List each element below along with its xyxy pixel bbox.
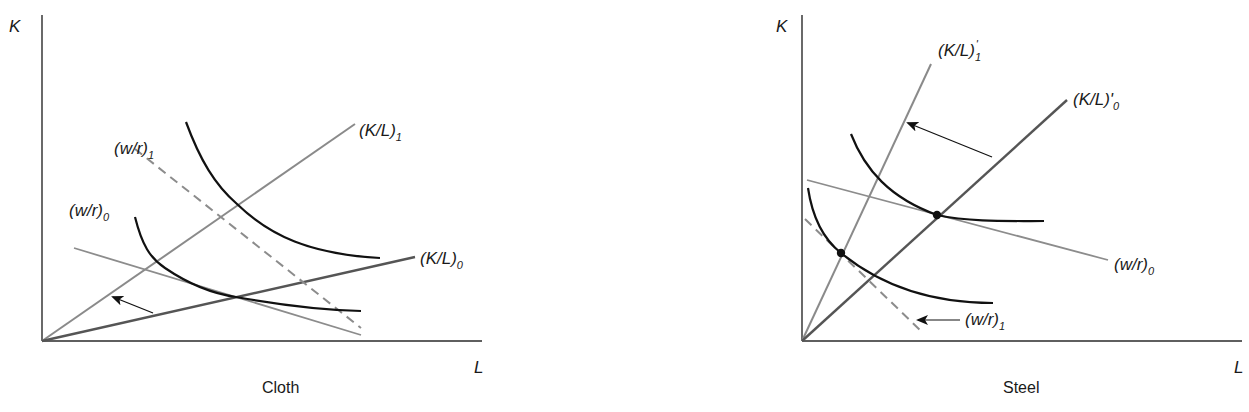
cloth-title: Cloth	[262, 379, 299, 396]
cloth-price-line-wr0	[74, 248, 361, 335]
steel-k-axis-label: K	[776, 17, 788, 36]
cloth-ray-kl0	[42, 257, 415, 341]
steel-tangency-point-lower	[837, 249, 845, 257]
steel-label-kl0-prime: (K/L)'0	[1073, 90, 1120, 112]
cloth-isoquant-lower	[135, 217, 361, 311]
steel-tangency-point-upper	[933, 211, 941, 219]
steel-price-line-wr1	[805, 219, 920, 330]
cloth-label-wr0: (w/r)0	[69, 201, 110, 223]
steel-label-wr0: (w/r)0	[1114, 255, 1155, 277]
cloth-k-axis-label: K	[9, 17, 21, 36]
diagram-canvas: K L (K/L)1 (K/L)0 (w/r)1 (w/r)0 Cloth K …	[0, 0, 1249, 412]
steel-l-axis-label: L	[1234, 358, 1243, 377]
steel-label-kl1-prime: (K/L)'1	[938, 38, 981, 63]
steel-label-wr1: (w/r)1	[965, 310, 1005, 332]
cloth-panel: K L (K/L)1 (K/L)0 (w/r)1 (w/r)0 Cloth	[9, 15, 483, 396]
steel-title: Steel	[1003, 379, 1039, 396]
cloth-label-wr1: (w/r)1	[114, 139, 154, 161]
steel-panel: K L (K/L)'1 (K/L)'0 (w/r)0 (w/r)1 Steel	[776, 15, 1243, 396]
steel-shift-arrow-icon	[908, 123, 992, 157]
cloth-label-kl0: (K/L)0	[420, 249, 464, 271]
cloth-l-axis-label: L	[474, 358, 483, 377]
cloth-isoquant-upper	[186, 122, 380, 258]
steel-price-line-wr0	[807, 180, 1108, 260]
cloth-shift-arrow-icon	[113, 297, 153, 313]
cloth-label-kl1: (K/L)1	[359, 121, 402, 143]
